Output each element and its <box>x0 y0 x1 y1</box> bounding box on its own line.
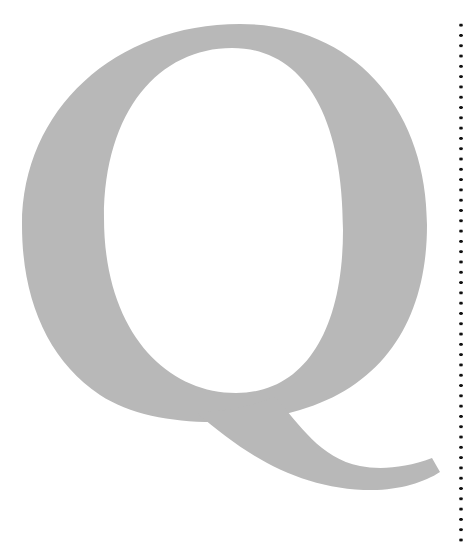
dotted-vertical-divider <box>459 20 463 548</box>
q-letterform <box>22 24 440 490</box>
large-letter-q-glyph <box>0 0 470 548</box>
